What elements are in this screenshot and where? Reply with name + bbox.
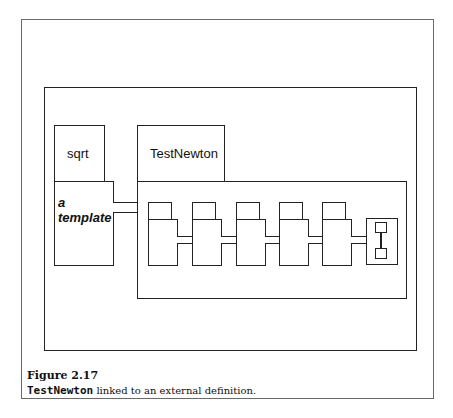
template-link-connector [113, 202, 138, 213]
module-5-body [322, 219, 352, 266]
module-4-body [279, 219, 309, 266]
module-4-tab [279, 202, 303, 220]
template-label: template [58, 210, 111, 225]
figure-caption: TestNewton linked to an external definit… [27, 384, 256, 397]
figure-caption-title: Figure 2.17 [27, 369, 98, 382]
module-connector [351, 236, 367, 244]
caption-text: linked to an external definition. [93, 385, 256, 396]
testnewton-label: TestNewton [150, 146, 218, 161]
output-square-top [375, 222, 387, 233]
module-connector [177, 236, 193, 244]
module-2-tab [192, 202, 216, 220]
module-3-body [236, 219, 266, 266]
template-label-a: a [58, 195, 65, 210]
template-box: a template [54, 181, 114, 266]
module-2-body [192, 219, 222, 266]
output-square-bottom [375, 248, 387, 259]
module-connector [265, 236, 280, 244]
module-1-body [148, 219, 178, 266]
module-3-tab [236, 202, 260, 220]
output-link-line [380, 231, 382, 249]
module-connector [221, 236, 237, 244]
sqrt-label-box: sqrt [54, 125, 105, 182]
module-connector [308, 236, 323, 244]
module-1-tab [148, 202, 172, 220]
testnewton-label-box: TestNewton [137, 125, 225, 182]
module-5-tab [322, 202, 346, 220]
sqrt-label: sqrt [67, 146, 89, 161]
caption-code: TestNewton [27, 384, 93, 397]
